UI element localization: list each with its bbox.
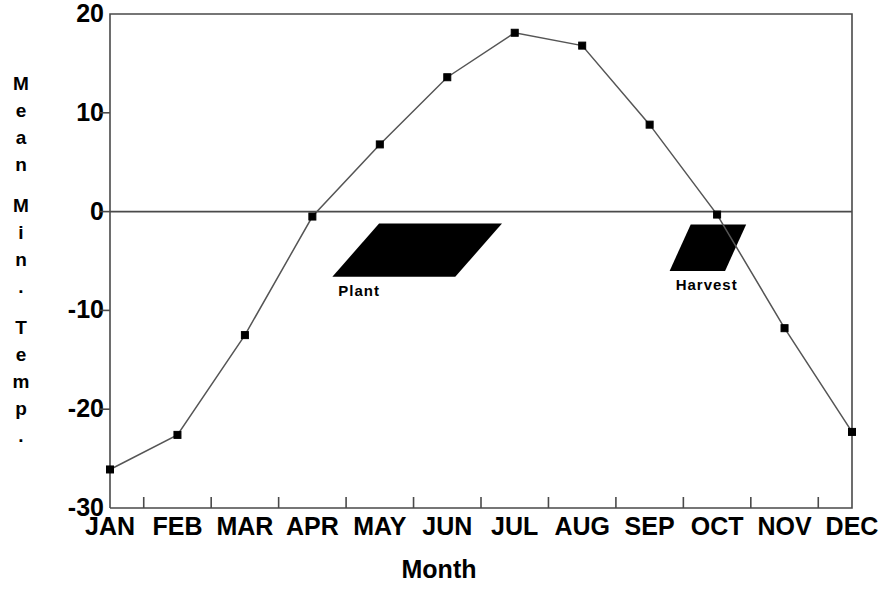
annotation-shape-plant <box>332 223 502 276</box>
data-series-line <box>110 33 852 470</box>
data-point-marker[interactable] <box>714 211 721 218</box>
plot-frame <box>110 14 852 508</box>
data-point-marker[interactable] <box>781 325 788 332</box>
data-point-marker[interactable] <box>511 29 518 36</box>
annotation-shape-harvest <box>670 224 747 270</box>
data-point-marker[interactable] <box>174 431 181 438</box>
data-point-marker[interactable] <box>444 74 451 81</box>
data-point-marker[interactable] <box>646 121 653 128</box>
data-point-marker[interactable] <box>107 466 114 473</box>
annotation-label-plant: Plant <box>338 282 380 299</box>
data-point-marker[interactable] <box>849 428 856 435</box>
x-axis-title: Month <box>0 555 878 584</box>
annotation-label-harvest: Harvest <box>676 276 738 293</box>
data-point-marker[interactable] <box>241 332 248 339</box>
data-point-marker[interactable] <box>309 213 316 220</box>
data-point-marker[interactable] <box>376 141 383 148</box>
data-point-marker[interactable] <box>579 42 586 49</box>
